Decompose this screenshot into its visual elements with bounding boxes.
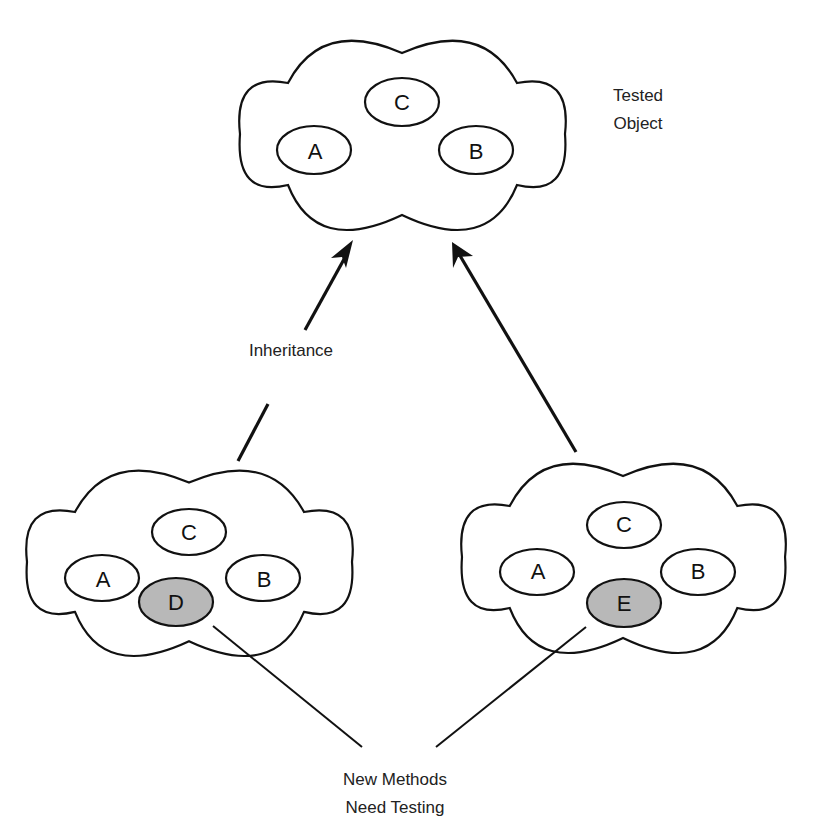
svg-text:D: D [168,590,184,615]
callout-line-left [213,626,362,747]
method-a: A [277,126,351,174]
method-b: B [439,126,513,174]
svg-text:A: A [96,567,111,592]
svg-text:B: B [257,567,272,592]
method-c: C [365,78,439,126]
new-methods-callout: New Methods Need Testing [315,766,475,822]
svg-text:C: C [181,520,197,545]
svg-text:C: C [616,512,632,537]
method-c: C [587,502,661,548]
inheritance-label: Inheritance [226,337,356,365]
method-d-new: D [139,578,213,626]
method-e-new: E [587,579,661,627]
inheritance-arrow-right [452,242,576,452]
svg-text:C: C [394,90,410,115]
method-a: A [500,549,574,595]
callout-line-right [436,627,586,747]
method-b: B [661,549,735,595]
svg-text:B: B [469,139,484,164]
svg-text:A: A [308,139,323,164]
method-a: A [65,555,139,601]
svg-text:B: B [691,559,706,584]
inheritance-diagram: C A B C A B D [0,0,815,840]
svg-text:A: A [531,559,546,584]
method-b: B [226,555,300,601]
tested-object-label: Tested Object [596,82,680,138]
method-c: C [152,509,226,555]
svg-text:E: E [617,591,632,616]
arrowhead-icon [452,242,473,268]
